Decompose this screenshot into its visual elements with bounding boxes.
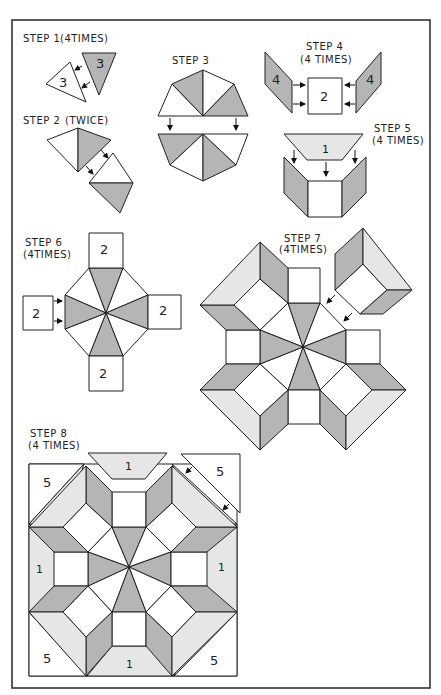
piece-label: 5 (216, 464, 224, 479)
piece-label: 3 (59, 75, 67, 90)
piece-label: 1 (126, 658, 133, 671)
square-white (54, 552, 88, 586)
step-1: STEP 1 (4TIMES) 3 3 (23, 33, 116, 102)
step-6: STEP 6 (4TIMES) 2 2 2 2 (23, 233, 181, 391)
step-7-title: STEP 7 (284, 233, 321, 244)
arrow-icon (101, 150, 108, 158)
step-8-note: (4 TIMES) (28, 440, 80, 451)
piece-label: 1 (218, 561, 225, 574)
step-3: STEP 3 (158, 55, 248, 181)
arrow-icon (344, 313, 352, 321)
piece-label: 1 (36, 563, 43, 576)
piece-label: 5 (210, 653, 218, 668)
quilt-assembly-diagram: STEP 1 (4TIMES) 3 3 STEP 2 (TWICE) STEP … (0, 0, 441, 695)
step-2: STEP 2 (TWICE) (23, 115, 133, 213)
step-2-title: STEP 2 (23, 115, 60, 126)
parallelogram-dark-right (342, 157, 366, 217)
piece-label: 5 (43, 475, 51, 490)
piece-label: 3 (96, 56, 104, 71)
step-1-note: (4TIMES) (60, 33, 109, 44)
step-5-note: (4 TIMES) (372, 135, 424, 146)
piece-label: 5 (43, 651, 51, 666)
piece-label: 4 (272, 72, 280, 87)
triangle-white (89, 153, 133, 183)
piece-label: 1 (125, 460, 132, 473)
square-white (346, 330, 380, 364)
square-white (171, 552, 207, 586)
step-4-title: STEP 4 (306, 41, 343, 52)
step-6-note: (4TIMES) (23, 249, 72, 260)
square-white (226, 330, 260, 364)
step-5: STEP 5 (4 TIMES) 1 (284, 123, 424, 217)
step-2-note: (TWICE) (65, 115, 109, 126)
step-8: STEP 8 (4 TIMES) (28, 428, 240, 676)
step-3-title: STEP 3 (172, 55, 209, 66)
piece-label: 1 (322, 143, 329, 156)
piece-label: 2 (159, 303, 167, 318)
step-7: STEP 7 (4TIMES) (200, 228, 412, 450)
step-8-title: STEP 8 (30, 428, 67, 439)
piece-label: 2 (100, 242, 108, 257)
square-white (112, 612, 146, 646)
square-white (308, 181, 342, 217)
square-white (112, 492, 146, 527)
parallelogram-dark-left (284, 157, 308, 217)
square-white (288, 390, 320, 424)
step-1-title: STEP 1 (23, 33, 60, 44)
step-5-title: STEP 5 (374, 123, 411, 134)
piece-label: 2 (99, 366, 107, 381)
arrow-icon (82, 82, 90, 88)
step-6-title: STEP 6 (25, 237, 62, 248)
arrow-icon (327, 295, 335, 303)
piece-label: 2 (32, 306, 40, 321)
triangle-dark (89, 183, 133, 213)
step-7-note: (4TIMES) (279, 244, 328, 255)
arrow-icon (86, 166, 93, 174)
piece-label: 4 (366, 72, 374, 87)
step-4: STEP 4 (4 TIMES) 4 2 4 (265, 41, 381, 114)
arrow-icon (75, 66, 82, 70)
triangle-white (47, 128, 78, 172)
piece-label: 2 (320, 89, 328, 104)
step-4-note: (4 TIMES) (300, 54, 352, 65)
square-white (288, 268, 320, 303)
